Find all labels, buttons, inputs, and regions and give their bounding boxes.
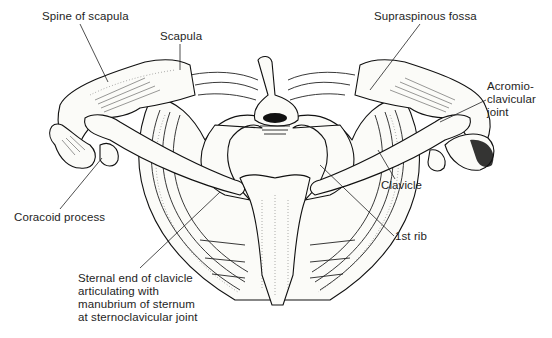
label-line: joint: [487, 106, 536, 119]
label-scapula: Scapula: [160, 30, 202, 43]
label-line: articulating with: [78, 285, 197, 298]
label-clavicle: Clavicle: [381, 179, 422, 192]
label-line: manubrium of sternum: [78, 298, 197, 311]
label-supraspinous-fossa: Supraspinous fossa: [374, 10, 477, 23]
anatomical-figure: Spine of scapula Scapula Supraspinous fo…: [0, 0, 552, 338]
label-line: at sternoclavicular joint: [78, 311, 197, 324]
label-first-rib: 1st rib: [395, 230, 427, 243]
label-spine-of-scapula: Spine of scapula: [42, 10, 129, 23]
label-line: Acromio-: [487, 80, 536, 93]
label-acromioclavicular-joint: Acromio- clavicular joint: [487, 80, 536, 119]
label-line: clavicular: [487, 93, 536, 106]
label-coracoid-process: Coracoid process: [14, 211, 105, 224]
label-sternal-end-of-clavicle: Sternal end of clavicle articulating wit…: [78, 272, 197, 324]
label-line: Sternal end of clavicle: [78, 272, 197, 285]
